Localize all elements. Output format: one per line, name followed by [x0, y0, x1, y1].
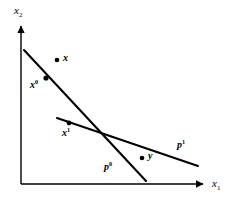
figure-canvas	[0, 0, 234, 202]
point-label-y-base: y	[148, 150, 152, 161]
y-axis-label-subscript: 2	[19, 11, 22, 18]
x-axis-label-subscript: 1	[217, 184, 220, 191]
point-label-x1: x1	[62, 128, 70, 138]
point-label-x1-superscript: 1	[67, 126, 70, 133]
x-axis-label: x1	[212, 178, 220, 189]
point-label-x0-superscript: 0	[35, 78, 38, 85]
vector-label-p1-superscript: 1	[182, 138, 185, 145]
vector-label-p0-superscript: 0	[109, 160, 112, 167]
geometry-figure: x2 x1 x x0 x1 y p0 p1	[0, 0, 234, 202]
point-label-x: x	[63, 53, 68, 63]
point-dot-x	[55, 58, 60, 63]
point-label-x-base: x	[63, 52, 68, 63]
vector-label-p0: p0	[104, 162, 112, 172]
y-axis-label: x2	[14, 5, 22, 16]
point-dot-y	[140, 156, 145, 161]
vector-label-p1: p1	[177, 140, 185, 150]
point-label-x0: x0	[30, 80, 38, 90]
point-label-y: y	[148, 151, 152, 161]
point-dot-x0	[43, 75, 48, 80]
hyperplane-p0-line	[24, 50, 146, 181]
point-dot-x1	[67, 121, 72, 126]
